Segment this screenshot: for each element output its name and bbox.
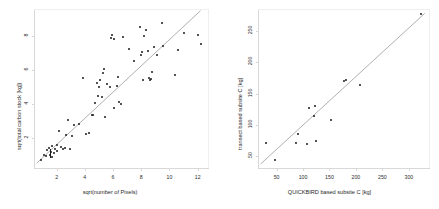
x-tick-label: 50 [274, 174, 280, 180]
x-tick-label: 4 [83, 174, 86, 180]
x-tickmark [141, 169, 142, 171]
figure-container: 246810122468sqrt(number of Pixels)sqrt(t… [0, 0, 439, 209]
x-axis-title: QUICKBIRD based subsite C [kg] [220, 189, 439, 195]
y-tick-label: 2 [23, 131, 29, 143]
y-tickmark [256, 125, 258, 126]
x-tickmark [85, 169, 86, 171]
x-tickmark [329, 169, 330, 171]
y-tick-label: 150 [247, 87, 253, 99]
y-tickmark [32, 138, 34, 139]
x-tick-label: 2 [55, 174, 58, 180]
x-tick-label: 8 [140, 174, 143, 180]
x-tick-label: 12 [195, 174, 201, 180]
data-point [122, 36, 124, 38]
data-point [139, 26, 141, 28]
data-point [156, 54, 158, 56]
data-point [113, 38, 115, 40]
y-tick-label: 8 [23, 29, 29, 41]
data-point [295, 142, 297, 144]
data-point [177, 49, 179, 51]
x-tickmark [57, 169, 58, 171]
y-tickmark [256, 94, 258, 95]
data-point [265, 142, 267, 144]
data-point [110, 37, 112, 39]
x-tick-label: 150 [325, 174, 334, 180]
x-axis-title: sqrt(number of Pixels) [0, 189, 220, 195]
y-tickmark [32, 104, 34, 105]
data-point [69, 148, 71, 150]
data-point [313, 115, 315, 117]
y-tick-label: 4 [23, 97, 29, 109]
x-tick-label: 300 [405, 174, 414, 180]
data-point [101, 96, 103, 98]
x-tickmark [356, 169, 357, 171]
data-point [330, 119, 332, 121]
x-tickmark [113, 169, 114, 171]
x-tick-label: 200 [352, 174, 361, 180]
y-tickmark [256, 156, 258, 157]
data-point [151, 71, 153, 73]
y-tickmark [32, 70, 34, 71]
y-tickmark [32, 36, 34, 37]
data-point [96, 82, 98, 84]
data-point [40, 159, 42, 161]
x-tick-label: 10 [167, 174, 173, 180]
x-tickmark [277, 169, 278, 171]
y-tick-label: 100 [247, 118, 253, 130]
x-tickmark [303, 169, 304, 171]
data-point [315, 140, 317, 142]
y-tickmark [256, 62, 258, 63]
data-point [314, 105, 316, 107]
data-point [420, 13, 422, 15]
y-tick-label: 6 [23, 63, 29, 75]
data-point [73, 124, 75, 126]
data-point [274, 159, 276, 161]
y-tick-label: 250 [247, 24, 253, 36]
data-point [345, 79, 347, 81]
y-tickmark [256, 31, 258, 32]
y-axis-title: transect based subsite C [kg] [237, 78, 243, 150]
data-point [53, 152, 55, 154]
data-point [147, 50, 149, 52]
x-tick-label: 100 [299, 174, 308, 180]
data-point [142, 79, 144, 81]
y-tick-label: 50 [247, 149, 253, 161]
y-tick-label: 200 [247, 55, 253, 67]
annotation-vertical-tick-marker [50, 149, 51, 158]
scatter-panel-left: 246810122468sqrt(number of Pixels)sqrt(t… [0, 0, 220, 209]
data-point [97, 95, 99, 97]
x-tickmark [169, 169, 170, 171]
data-point [103, 68, 105, 70]
data-point [200, 43, 202, 45]
data-point [102, 72, 104, 74]
data-point [71, 135, 73, 137]
x-tick-label: 6 [112, 174, 115, 180]
data-point [161, 22, 163, 24]
data-point [64, 147, 66, 149]
data-point [56, 144, 58, 146]
data-point [58, 130, 60, 132]
x-tickmark [198, 169, 199, 171]
x-tickmark [409, 169, 410, 171]
x-tick-label: 250 [378, 174, 387, 180]
data-point [150, 78, 152, 80]
data-point [183, 32, 185, 34]
x-tickmark [382, 169, 383, 171]
data-point [92, 114, 94, 116]
data-point [141, 51, 143, 53]
scatter-panel-right: 5010015020025030050100150200250QUICKBIRD… [220, 0, 439, 209]
y-axis-title: sqrt(total carbon stock [kg]) [16, 83, 22, 150]
data-point [128, 48, 130, 50]
